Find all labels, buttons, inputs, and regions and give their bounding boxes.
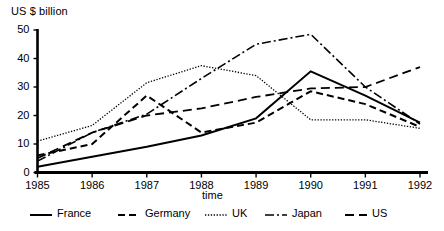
- y-tick-label: 0: [8, 167, 30, 178]
- y-tick-label: 40: [8, 53, 30, 64]
- legend-line-swatch: [30, 207, 52, 219]
- legend-item-france[interactable]: France: [30, 205, 91, 221]
- legend-line-swatch: [265, 207, 287, 219]
- legend-item-germany[interactable]: Germany: [118, 205, 190, 221]
- legend-item-us[interactable]: US: [345, 205, 387, 221]
- legend-label: US: [372, 207, 387, 219]
- series-line-germany: [38, 91, 421, 155]
- x-axis-title: time: [202, 190, 223, 201]
- series-lines: [38, 34, 421, 167]
- legend-label: France: [57, 207, 91, 219]
- chart-legend: FranceGermanyUKJapanUS: [0, 205, 444, 225]
- legend-line-swatch: [345, 207, 367, 219]
- x-tick-label: 1991: [345, 180, 385, 191]
- series-line-us: [38, 67, 421, 158]
- x-tick-label: 1986: [72, 180, 112, 191]
- legend-line-swatch: [118, 207, 140, 219]
- legend-label: Japan: [292, 207, 322, 219]
- x-tick-label: 1985: [18, 180, 58, 191]
- legend-item-japan[interactable]: Japan: [265, 205, 322, 221]
- chart-figure: US $ billion 50403020100 198519861987198…: [0, 0, 444, 231]
- y-tick-label: 30: [8, 81, 30, 92]
- y-tick-label: 50: [8, 24, 30, 35]
- y-tick-label: 20: [8, 110, 30, 121]
- series-line-france: [38, 71, 421, 166]
- legend-label: UK: [232, 207, 247, 219]
- y-tick-label: 10: [8, 138, 30, 149]
- x-tick-label: 1987: [127, 180, 167, 191]
- legend-item-uk[interactable]: UK: [205, 205, 247, 221]
- x-tick-label: 1990: [291, 180, 331, 191]
- x-tick-label: 1992: [400, 180, 440, 191]
- axis-lines: [35, 29, 429, 173]
- legend-label: Germany: [145, 207, 190, 219]
- x-tick-label: 1989: [236, 180, 276, 191]
- legend-line-swatch: [205, 207, 227, 219]
